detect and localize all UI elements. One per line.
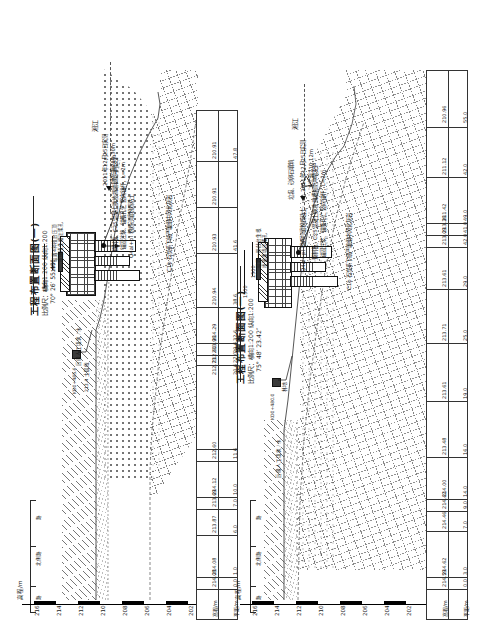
table-cell-dist-5-left: 11.6 (232, 448, 238, 459)
section-data-table-right: 高程/m 平距/m 214.59 0.0 214.62 3.0 214.46 7… (426, 70, 468, 620)
water-level-marker-right (300, 196, 306, 201)
table-row-rule-2-left (197, 509, 237, 510)
anno-road-1-right: 北侧路 (256, 551, 261, 566)
anno-road-1-left: 北侧路 (36, 551, 41, 566)
table-row-rule-9-left (197, 307, 237, 308)
table-cell-elev-13-left: 210.91 (211, 142, 217, 160)
table-row-rule-6-right (427, 343, 467, 344)
anno-anchor-detail-left: 锚固注浆、锚筋孔位 竖向锚杆，L=2m (120, 162, 126, 250)
table-cell-elev-5-left: 212.60 (211, 442, 217, 460)
anno-terrace-label-left: 后缘人工填筑 / 水 (76, 327, 81, 366)
table-row-rule-12-right (427, 127, 467, 128)
panel-angle-right: 75° 48′ 23.42″ (256, 328, 262, 372)
table-cell-elev-10-left: 210.94 (211, 288, 217, 306)
table-cell-dist-1-left: 1.0 (232, 567, 238, 575)
section-panel-left: 1500 1500 锚固注浆、锚筋孔位 竖向锚杆，L=2m 预制板、C25混凝土… (0, 0, 240, 630)
table-cell-dist-9-right: 42.0 (462, 234, 468, 245)
table-cell-dist-11-right: 49.0 (462, 210, 468, 221)
table-cell-elev-1-left: 214.08 (211, 558, 217, 576)
berm-slab-left (94, 270, 140, 281)
table-cell-elev-9-left: 214.29 (211, 324, 217, 342)
berm-slab-right (290, 276, 338, 287)
road-tick-b-left (30, 546, 36, 547)
table-cell-elev-4-left: 214.12 (211, 478, 217, 496)
table-cell-dist-13-right: 55.0 (462, 112, 468, 123)
toe-block-right (290, 262, 326, 272)
table-cell-dist-7-right: 25.0 (462, 330, 468, 341)
anno-road-0-left: 路 (36, 515, 41, 520)
elevation-axis-label-left: 高程/m (16, 581, 24, 600)
anno-slope-note-right: 设置一排戗台生根 (256, 228, 261, 268)
anno-river-name-right: 湘江 (292, 118, 299, 130)
table-cell-dist-2-left: 6.0 (232, 525, 238, 533)
road-tick-a-left (30, 500, 36, 501)
elev-tick-1-right: 214 (274, 605, 280, 616)
table-cell-dist-1-right: 3.0 (462, 567, 468, 575)
table-cell-elev-6-right: 213.61 (441, 382, 447, 400)
table-row-rule-2-right (427, 511, 467, 512)
table-cell-dist-3-right: 9.0 (462, 501, 468, 509)
table-header-rule-right (427, 589, 467, 590)
anno-geo-q4-right: Q4al+pl 粉质砂壤粉质粘土 (300, 208, 306, 272)
elev-tick-5-left: 206 (144, 605, 150, 616)
table-cell-elev-2-left: 213.87 (211, 516, 217, 534)
table-cell-dist-3-left: 7.0 (232, 499, 238, 507)
table-cell-elev-5-right: 213.48 (441, 438, 447, 456)
title-underline-right (240, 266, 241, 382)
elev-tick-3-left: 210 (100, 605, 106, 616)
elev-tick-7-left: 202 (188, 605, 194, 616)
table-cell-elev-12-left: 210.91 (211, 188, 217, 206)
table-row-rule-5-right (427, 401, 467, 402)
anno-anchor-note-left: 喷播植生槽注浆孔 (58, 222, 63, 262)
table-row-rule-0-right (427, 577, 467, 578)
table-column-divider-right (448, 71, 449, 619)
drawing-sheet: 1500 1500 锚固注浆、锚筋孔位 竖向锚杆，L=2m 预制板、C25混凝土… (0, 0, 479, 630)
table-row-rule-8-right (427, 247, 467, 248)
table-cell-elev-7-right: 213.71 (441, 324, 447, 342)
table-row-rule-1-left (197, 535, 237, 536)
table-row-rule-4-left (197, 461, 237, 462)
geo-fill-alluvium-left (96, 300, 108, 600)
section-data-table-left: 高程/m 平距/m 214.08 0.0 214.08 1.0 213.87 6… (196, 110, 238, 620)
road-tick-b-right (250, 546, 256, 547)
table-row-rule-11-right (427, 177, 467, 178)
table-cell-elev-8-right: 213.61 (441, 270, 447, 288)
road-tick-c-right (250, 586, 256, 587)
table-row-rule-0-left (197, 577, 237, 578)
elev-tick-4-right: 208 (340, 605, 346, 616)
table-row-rule-7-left (197, 355, 237, 356)
elevation-axis-right: 高程/m 216 214 212 210 208 206 204 202 (240, 592, 440, 618)
title-underline-left (33, 196, 34, 314)
elevation-axis-left: 高程/m 216 214 212 210 208 206 204 202 (22, 592, 222, 618)
table-cell-elev-4-right: 214.00 (441, 480, 447, 498)
anno-river-level-left: 水位高210.30m (110, 143, 116, 182)
elev-tick-0-right: 216 (252, 605, 258, 616)
table-row-rule-3-left (197, 497, 237, 498)
anno-river-level-right: 水位高210.12m (308, 149, 314, 188)
anno-terrace-value-right: 林地 (282, 382, 287, 392)
elev-tick-2-left: 212 (78, 605, 84, 616)
table-cell-dist-13-left: 47.8 (232, 148, 238, 159)
panel-scale-right: 比例尺：横向1:200 纵向1:200 (248, 298, 254, 384)
anno-anchor-note-right: 喷锚垂墙注浆孔 (262, 233, 267, 268)
table-cell-dist-8-right: 29.0 (462, 276, 468, 287)
panel-scale-left: 比例尺：横向1:200 纵向1:200 (42, 230, 48, 316)
table-row-rule-8-left (197, 343, 237, 344)
table-row-rule-6-left (197, 365, 237, 366)
anno-geo-c1b-left: C1b 石炭系下统严塘组中风化灰岩 (166, 195, 172, 272)
geo-layer-c1b-fill-left (150, 70, 198, 500)
table-header-dist-right: 平距/m (462, 600, 469, 617)
anno-river-survey-right: 2011年12月25日实测 (300, 140, 306, 192)
table-row-rule-4-right (427, 457, 467, 458)
anno-geo-c1b-right: C1b 石炭系下统严塘组中风化灰岩 (346, 213, 352, 290)
elev-tick-5-right: 206 (362, 605, 368, 616)
anno-station-right: KD0+480.0 (270, 394, 275, 420)
table-row-rule-11-left (197, 207, 237, 208)
table-row-rule-9-right (427, 235, 467, 236)
table-cell-elev-2-right: 214.46 (441, 512, 447, 530)
table-cell-dist-0-right: 0.0 (462, 579, 468, 587)
anno-river-survey-left: 2011年12月25日实测 (102, 134, 108, 186)
table-cell-elev-11-right: 211.42 (441, 204, 447, 222)
table-row-rule-3-right (427, 499, 467, 500)
geo-fill-alluvium-right (284, 420, 298, 600)
